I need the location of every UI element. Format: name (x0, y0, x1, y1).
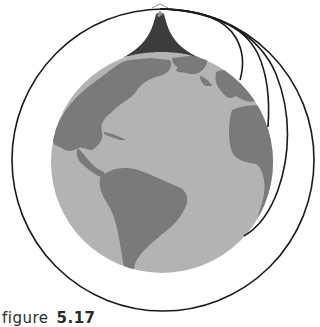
iceland-landmass (176, 68, 188, 73)
earth-globe (51, 51, 280, 282)
caption-label: figure (2, 309, 49, 327)
caption-number: 5.17 (57, 309, 96, 327)
figure-caption: figure5.17 (2, 311, 96, 326)
